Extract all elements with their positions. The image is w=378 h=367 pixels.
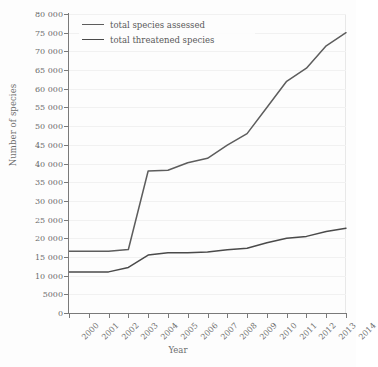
x-tick-label: 2012 <box>317 321 338 342</box>
x-tick-label: 2001 <box>100 321 121 342</box>
x-tick <box>208 313 209 318</box>
series-lines <box>69 14 346 313</box>
y-tick <box>64 33 69 34</box>
y-tick <box>64 276 69 277</box>
legend-line-icon <box>82 39 104 40</box>
y-tick <box>64 70 69 71</box>
y-tick <box>64 220 69 221</box>
y-tick-label: 55 000 <box>35 103 63 112</box>
x-axis-title: Year <box>0 345 356 355</box>
y-tick-label: 5000 <box>43 290 63 299</box>
y-tick-label: 70 000 <box>35 47 63 56</box>
x-tick-label: 2011 <box>298 321 319 342</box>
y-tick-label: 65 000 <box>35 66 63 75</box>
x-tick <box>69 313 70 318</box>
x-tick <box>188 313 189 318</box>
legend-item-total-species-assessed: total species assessed <box>82 17 252 32</box>
y-tick <box>64 182 69 183</box>
x-tick-label: 2009 <box>258 321 279 342</box>
x-tick <box>346 313 347 318</box>
y-tick <box>64 201 69 202</box>
y-tick <box>64 294 69 295</box>
x-tick <box>168 313 169 318</box>
x-tick <box>109 313 110 318</box>
x-tick <box>287 313 288 318</box>
series-line <box>69 33 346 252</box>
y-tick-label: 20 000 <box>35 234 63 243</box>
x-tick <box>128 313 129 318</box>
y-tick <box>64 238 69 239</box>
x-tick <box>227 313 228 318</box>
y-tick <box>64 51 69 52</box>
y-tick <box>64 164 69 165</box>
y-axis-title: Number of species <box>8 60 18 190</box>
y-tick-label: 0 <box>58 309 63 318</box>
x-tick-label: 2000 <box>80 321 101 342</box>
x-tick-label: 2005 <box>179 321 200 342</box>
y-tick-label: 15 000 <box>35 252 63 261</box>
y-tick-label: 40 000 <box>35 159 63 168</box>
y-tick-label: 10 000 <box>35 271 63 280</box>
x-tick <box>148 313 149 318</box>
y-tick <box>64 107 69 108</box>
x-tick <box>326 313 327 318</box>
y-tick <box>64 126 69 127</box>
chart-legend: total species assessed total threatened … <box>79 15 255 48</box>
x-tick-label: 2006 <box>199 321 220 342</box>
x-tick-label: 2007 <box>218 321 239 342</box>
x-tick-label: 2010 <box>278 321 299 342</box>
y-tick-label: 45 000 <box>35 140 63 149</box>
legend-label: total species assessed <box>110 20 205 30</box>
x-tick-label: 2002 <box>120 321 141 342</box>
y-tick-label: 30 000 <box>35 196 63 205</box>
x-tick-label: 2003 <box>139 321 160 342</box>
x-tick-label: 2014 <box>357 321 378 342</box>
y-tick-label: 60 000 <box>35 84 63 93</box>
y-tick-label: 75 000 <box>35 28 63 37</box>
y-tick <box>64 257 69 258</box>
y-tick-label: 80 000 <box>35 10 63 19</box>
legend-line-icon <box>82 24 104 25</box>
x-tick-label: 2004 <box>159 321 180 342</box>
legend-item-total-threatened-species: total threatened species <box>82 32 252 47</box>
y-tick <box>64 145 69 146</box>
series-line <box>69 228 346 272</box>
plot-area <box>69 14 346 313</box>
x-tick-label: 2008 <box>238 321 259 342</box>
y-tick-label: 50 000 <box>35 122 63 131</box>
x-tick <box>306 313 307 318</box>
y-tick <box>64 89 69 90</box>
y-tick-label: 25 000 <box>35 215 63 224</box>
x-tick <box>89 313 90 318</box>
y-tick-label: 35 000 <box>35 178 63 187</box>
x-tick <box>247 313 248 318</box>
y-tick <box>64 14 69 15</box>
x-tick <box>267 313 268 318</box>
x-tick-label: 2013 <box>337 321 358 342</box>
legend-label: total threatened species <box>110 35 214 45</box>
